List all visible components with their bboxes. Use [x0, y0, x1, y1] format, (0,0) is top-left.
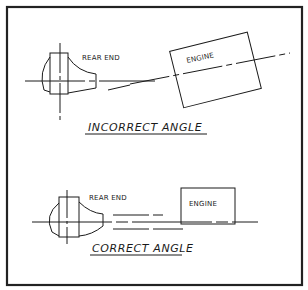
pinion-housing	[68, 57, 96, 93]
differential-cover	[42, 57, 50, 92]
differential-cover	[49, 203, 59, 236]
rear-end-label: REAR END	[82, 54, 120, 62]
driveline-angle-diagram: REAR END ENGINE INCORRECT ANGLE REAR END…	[0, 0, 308, 290]
engine-label: ENGINE	[186, 51, 215, 65]
correct-angle-figure: REAR END ENGINE CORRECT ANGLE	[32, 188, 258, 255]
engine-block-tilted	[170, 32, 262, 108]
correct-angle-caption: CORRECT ANGLE	[92, 242, 194, 255]
rear-end-housing	[50, 53, 68, 94]
rear-end-housing	[59, 197, 79, 237]
incorrect-angle-caption: INCORRECT ANGLE	[88, 121, 202, 134]
engine-label: ENGINE	[189, 200, 217, 208]
pinion-housing	[79, 202, 103, 236]
incorrect-angle-figure: REAR END ENGINE INCORRECT ANGLE	[25, 32, 290, 134]
rear-end-label: REAR END	[89, 194, 127, 202]
